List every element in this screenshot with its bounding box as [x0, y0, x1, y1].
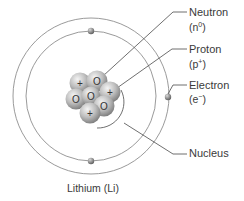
proton-leader — [117, 49, 187, 88]
electron-charge: − — [198, 93, 202, 100]
proton-label: Proton — [189, 43, 221, 56]
electron-right — [165, 94, 171, 100]
electron-top — [88, 28, 94, 34]
lithium-atom-diagram: + O + O O O + — [0, 0, 244, 201]
nucleus: + O + O O O + — [66, 71, 121, 124]
svg-text:+: + — [87, 108, 93, 119]
neutron-label: Neutron — [189, 6, 228, 19]
proton-symbol: (p+) — [189, 58, 206, 70]
nucleus-leader — [124, 123, 187, 154]
diagram-caption: Lithium (Li) — [67, 182, 119, 194]
neutron-charge: 0 — [198, 21, 202, 28]
nucleus-label: Nucleus — [189, 147, 229, 160]
svg-text:O: O — [93, 76, 101, 87]
electron-leader — [168, 85, 187, 94]
electron-bottom — [88, 158, 94, 164]
neutron-symbol: (n0) — [189, 21, 206, 33]
svg-text:+: + — [77, 78, 83, 89]
svg-text:O: O — [87, 91, 95, 102]
svg-text:O: O — [72, 94, 80, 105]
svg-text:+: + — [107, 87, 113, 98]
svg-text:O: O — [100, 101, 108, 112]
proton-particle: + — [80, 103, 101, 124]
proton-charge: + — [198, 58, 202, 65]
electron-label: Electron — [189, 79, 229, 92]
electron-symbol: (e−) — [189, 93, 206, 105]
atom-illustration: + O + O O O + — [0, 0, 244, 201]
